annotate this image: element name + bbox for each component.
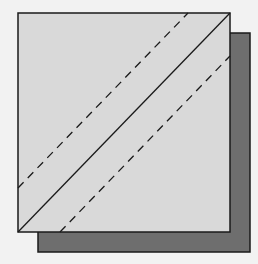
diagram-canvas bbox=[0, 0, 258, 264]
squares-diagram bbox=[0, 0, 258, 264]
